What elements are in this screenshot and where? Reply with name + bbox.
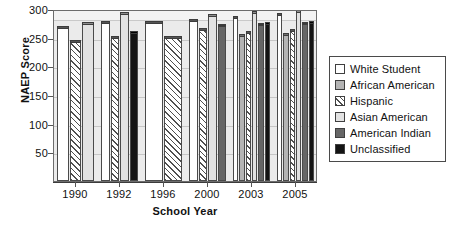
bar <box>189 21 198 181</box>
x-axis-tick-marks <box>53 182 317 187</box>
y-tick-label: 250 <box>14 33 48 45</box>
bar-top-edge <box>296 10 301 13</box>
legend-item: African American <box>335 77 441 93</box>
bar-top-edge <box>265 22 270 25</box>
bar-group <box>54 11 98 181</box>
bar <box>302 24 307 181</box>
bar-group <box>186 11 230 181</box>
legend-item-label: Hispanic <box>350 95 393 107</box>
x-tick-label: 1996 <box>143 188 183 200</box>
x-tick-label: 2005 <box>275 188 315 200</box>
bar-group <box>230 11 274 181</box>
bar <box>208 16 217 181</box>
bar-top-edge <box>233 16 238 19</box>
x-axis-tick-labels: 199019921996200020032005 <box>53 188 317 204</box>
bar <box>290 31 295 181</box>
bar <box>246 33 251 181</box>
bar <box>130 33 139 181</box>
legend-item: White Student <box>335 61 441 77</box>
bar-top-edge <box>208 14 217 17</box>
bar <box>164 38 182 181</box>
bar <box>283 35 288 181</box>
bar <box>277 15 282 181</box>
bar-top-edge <box>302 22 307 25</box>
bar-top-edge <box>283 33 288 36</box>
bar-top-edge <box>130 31 139 34</box>
bar-top-edge <box>239 34 244 37</box>
bar-top-edge <box>82 22 94 25</box>
x-axis-title: School Year <box>53 205 317 217</box>
y-tick-label: 50 <box>14 147 48 159</box>
y-tick-label: 150 <box>14 90 48 102</box>
bar-top-edge <box>70 40 82 43</box>
bar-group <box>142 11 186 181</box>
bar-top-edge <box>218 24 227 27</box>
bar <box>82 24 94 181</box>
gray-swatch <box>335 80 345 90</box>
bar <box>309 23 314 181</box>
white-swatch <box>335 64 345 74</box>
bar-top-edge <box>145 21 163 24</box>
y-tick-label: 100 <box>14 119 48 131</box>
bar <box>120 14 129 181</box>
bar <box>233 18 238 181</box>
bar-top-edge <box>164 36 182 39</box>
bar <box>101 23 110 181</box>
y-axis-tick-labels: 50100150200250300 <box>12 10 48 182</box>
bar <box>111 38 120 181</box>
bar <box>199 30 208 181</box>
bar <box>57 28 69 181</box>
bar-top-edge <box>111 36 120 39</box>
bar-top-edge <box>290 29 295 32</box>
x-tick-label: 1992 <box>99 188 139 200</box>
bar-series-container <box>54 11 316 181</box>
x-tick-label: 2003 <box>231 188 271 200</box>
legend-item: Unclassified <box>335 141 441 157</box>
bar-group <box>274 11 317 181</box>
bar <box>296 12 301 181</box>
plot-area <box>53 10 317 182</box>
bar-group <box>98 11 142 181</box>
x-tick-label: 1990 <box>55 188 95 200</box>
bar-top-edge <box>252 11 257 14</box>
bar-top-edge <box>120 12 129 15</box>
x-tick-label: 2000 <box>187 188 227 200</box>
bar-top-edge <box>309 21 314 24</box>
bar <box>265 24 270 181</box>
y-tick-label: 300 <box>14 4 48 16</box>
bar <box>239 36 244 181</box>
bar <box>70 42 82 181</box>
bar <box>218 26 227 181</box>
bar-top-edge <box>199 28 208 31</box>
bar <box>145 23 163 181</box>
bar <box>258 25 263 181</box>
legend-item: American Indian <box>335 125 441 141</box>
black-swatch <box>335 144 345 154</box>
light-gray-swatch <box>335 112 345 122</box>
legend-item-label: African American <box>350 79 435 91</box>
bar-top-edge <box>246 31 251 34</box>
bar-top-edge <box>57 26 69 29</box>
legend-item: Hispanic <box>335 93 441 109</box>
legend-item: Asian American <box>335 109 441 125</box>
y-tick-label: 200 <box>14 61 48 73</box>
bar-top-edge <box>277 13 282 16</box>
hatch-swatch <box>335 96 345 106</box>
bar-top-edge <box>189 19 198 22</box>
bar-top-edge <box>101 21 110 24</box>
bar-top-edge <box>258 23 263 26</box>
legend-item-label: Unclassified <box>350 143 411 155</box>
legend-item-label: Asian American <box>350 111 428 123</box>
dark-gray-swatch <box>335 128 345 138</box>
naep-score-bar-chart: NAEP Score 50100150200250300 19901992199… <box>0 0 451 233</box>
legend: White StudentAfrican AmericanHispanicAsi… <box>329 56 446 162</box>
legend-item-label: American Indian <box>350 127 431 139</box>
bar <box>252 13 257 181</box>
legend-item-label: White Student <box>350 63 420 75</box>
